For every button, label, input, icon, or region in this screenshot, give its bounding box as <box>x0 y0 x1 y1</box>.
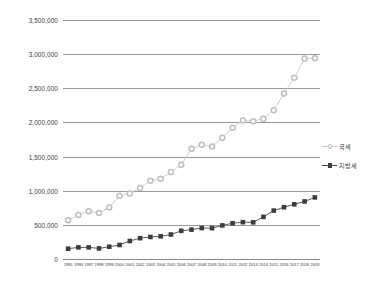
data-point <box>302 56 307 61</box>
data-point <box>292 75 297 80</box>
data-point <box>292 202 297 207</box>
x-tick-label: 2009 <box>208 262 217 267</box>
data-point <box>117 243 122 248</box>
x-tick-label: 2006 <box>177 262 186 267</box>
x-tick-label: 2003 <box>146 262 155 267</box>
data-point <box>241 220 246 225</box>
data-point <box>179 229 184 234</box>
data-point <box>148 178 153 183</box>
data-point <box>158 176 163 181</box>
data-point <box>107 205 112 210</box>
x-tick-label: 2018 <box>300 262 309 267</box>
x-tick-label: 2005 <box>166 262 175 267</box>
legend-item-국세[interactable]: 국세 <box>322 141 366 152</box>
data-point <box>261 215 266 220</box>
data-point <box>199 142 204 147</box>
data-point <box>86 209 91 214</box>
x-tick-label: 2013 <box>249 262 258 267</box>
data-point <box>138 186 143 191</box>
data-point <box>76 212 81 217</box>
data-point <box>282 205 287 210</box>
data-point <box>271 208 276 213</box>
series-line-지방세 <box>68 197 315 248</box>
x-tick-label: 1998 <box>95 262 104 267</box>
x-tick-label: 2002 <box>136 262 145 267</box>
x-tick-label: 1996 <box>74 262 83 267</box>
data-point <box>230 125 235 130</box>
data-point <box>302 199 307 204</box>
x-tick-label: 2012 <box>238 262 247 267</box>
legend-marker-icon <box>322 142 337 151</box>
data-point <box>282 91 287 96</box>
data-point <box>107 244 112 249</box>
series-layer <box>0 0 366 295</box>
x-tick-label: 2008 <box>197 262 206 267</box>
data-point <box>271 108 276 113</box>
data-point <box>312 56 317 61</box>
data-point <box>138 236 143 241</box>
x-tick-label: 2017 <box>290 262 299 267</box>
x-tick-label: 2015 <box>269 262 278 267</box>
data-point <box>240 118 245 123</box>
data-point <box>220 223 225 228</box>
data-point <box>96 210 101 215</box>
line-chart: 0500,0001,000,0001,500,0002,000,0002,500… <box>0 0 366 295</box>
data-point <box>261 116 266 121</box>
data-point <box>251 220 256 225</box>
data-point <box>76 245 81 250</box>
legend-label: 국세 <box>339 142 351 151</box>
x-tick-label: 1995 <box>64 262 73 267</box>
x-tick-label: 2007 <box>187 262 196 267</box>
x-tick-label: 2014 <box>259 262 268 267</box>
series-line-국세 <box>68 58 315 220</box>
x-tick-label: 2004 <box>156 262 165 267</box>
data-point <box>220 135 225 140</box>
data-point <box>97 246 102 251</box>
legend-label: 지방세 <box>339 161 357 170</box>
data-point <box>313 195 318 200</box>
data-point <box>210 226 215 231</box>
data-point <box>199 226 204 231</box>
data-point <box>117 193 122 198</box>
data-point <box>148 235 153 240</box>
x-tick-label: 1997 <box>84 262 93 267</box>
data-point <box>210 144 215 149</box>
x-tick-label: 2010 <box>218 262 227 267</box>
data-point <box>158 234 163 239</box>
data-point <box>179 162 184 167</box>
data-point <box>66 218 71 223</box>
x-tick-label: 2000 <box>115 262 124 267</box>
data-point <box>189 146 194 151</box>
data-point <box>86 245 91 250</box>
data-point <box>169 232 174 237</box>
data-point <box>251 119 256 124</box>
x-tick-label: 2001 <box>125 262 134 267</box>
x-tick-label: 2019 <box>310 262 319 267</box>
legend-marker-icon <box>322 161 337 170</box>
chart-legend: 국세지방세 <box>322 141 366 179</box>
x-axis-labels: 1995199619971998199920002001200220032004… <box>63 262 320 274</box>
x-tick-label: 2011 <box>228 262 237 267</box>
data-point <box>66 246 71 251</box>
legend-item-지방세[interactable]: 지방세 <box>322 160 366 171</box>
data-point <box>230 221 235 226</box>
x-tick-label: 1999 <box>105 262 114 267</box>
x-tick-label: 2016 <box>280 262 289 267</box>
data-point <box>127 191 132 196</box>
data-point <box>168 170 173 175</box>
data-point <box>128 239 133 244</box>
data-point <box>189 227 194 232</box>
